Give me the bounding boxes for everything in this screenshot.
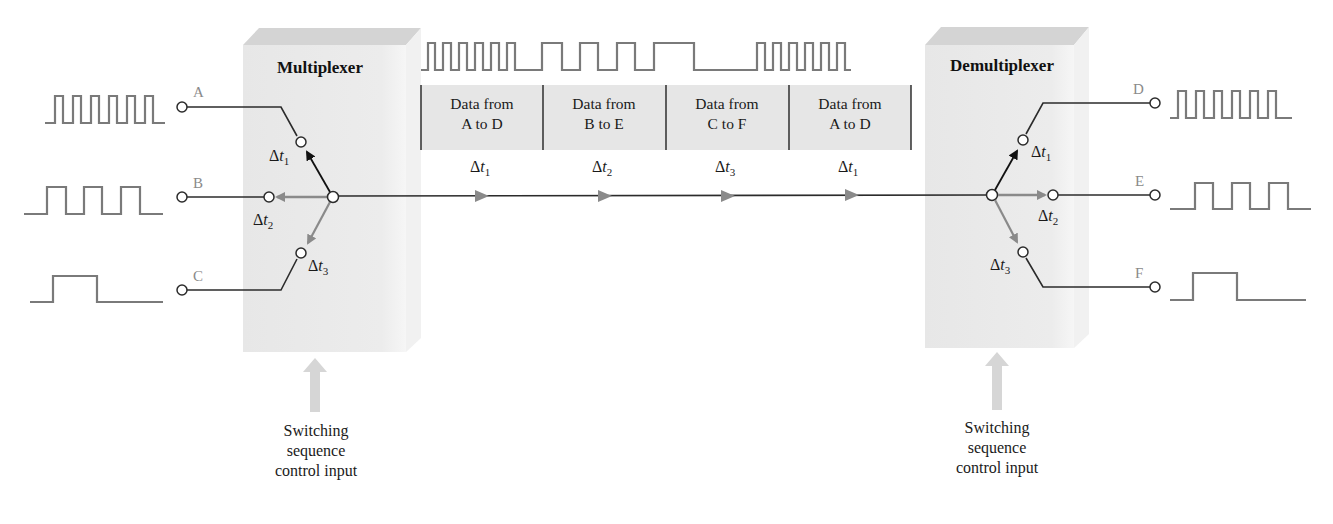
channel-line [338,195,987,196]
demux-contact-d [1018,135,1028,145]
mux-hub [328,192,339,203]
port-label-d: D [1133,81,1144,97]
demultiplexer-title: Demultiplexer [950,56,1054,75]
transmission-line [328,189,998,203]
port-a-contact [177,102,187,112]
waveform-c [30,276,163,302]
demux-control-input: Switching sequence control input [956,352,1039,477]
frame-1-line1: Data from [450,95,513,112]
mux-control-line1: Switching [284,422,349,440]
input-waveforms [24,96,165,302]
waveform-b [24,187,163,214]
channel-arrow-3 [721,190,735,202]
waveform-d [1170,91,1292,118]
waveform-f [1170,273,1306,300]
switch-contact-a [296,137,306,147]
port-label-f: F [1135,265,1143,281]
demux-control-arrow-icon [985,352,1009,410]
mux-control-line3: control input [275,462,358,480]
demux-control-line1: Switching [965,419,1030,437]
port-label-c: C [193,268,203,284]
port-f-contact [1150,282,1160,292]
multiplexer-side-face [406,28,421,352]
demux-contact-e [1048,190,1058,200]
frame-4-line2: A to D [829,115,870,132]
frame-4-slot: Δt1 [838,158,858,178]
demultiplexer-top-face [925,27,1089,45]
demux-contact-f [1018,247,1028,257]
mux-control-input: Switching sequence control input [275,358,358,480]
switch-contact-b [264,192,274,202]
port-c-contact [177,285,187,295]
frame-3-line1: Data from [695,95,758,112]
data-frames: Data from A to D Data from B to E Data f… [421,85,911,178]
switch-contact-c [296,248,306,258]
demultiplexer-box: Demultiplexer [925,27,1089,348]
demux-hub [987,190,998,201]
port-label-a: A [193,84,204,100]
tdm-diagram: Multiplexer Demultiplexer [0,0,1333,524]
demux-control-line2: sequence [968,439,1027,457]
composite-waveform [421,43,851,70]
frame-2-slot: Δt2 [592,158,612,178]
port-label-b: B [193,175,203,191]
port-b-contact [177,192,187,202]
frame-2-line2: B to E [584,115,624,132]
waveform-e [1170,183,1311,209]
channel-arrow-2 [598,190,612,202]
demultiplexer-side-face [1074,27,1089,348]
frame-3-slot: Δt3 [715,158,736,178]
multiplexer-title: Multiplexer [277,58,363,77]
frame-1-line2: A to D [461,115,502,132]
mux-control-line2: sequence [287,442,346,460]
port-e-contact [1150,190,1160,200]
frame-1-slot: Δt1 [470,158,490,178]
multiplexer-box: Multiplexer [243,28,421,352]
channel-arrow-1 [475,190,489,202]
output-waveforms [1170,91,1311,300]
port-d-contact [1150,98,1160,108]
frame-2-line1: Data from [572,95,635,112]
multiplexer-top-face [243,28,421,45]
mux-control-arrow-icon [303,358,327,412]
demux-control-line3: control input [956,459,1039,477]
frame-4-line1: Data from [818,95,881,112]
channel-arrow-4 [845,189,859,201]
waveform-a [45,96,165,123]
frame-3-line2: C to F [708,115,747,132]
port-label-e: E [1135,173,1144,189]
